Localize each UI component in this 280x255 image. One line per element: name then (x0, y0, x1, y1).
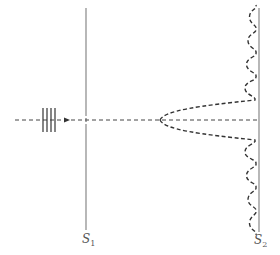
diffraction-pattern-upper (160, 5, 256, 120)
arrow-head-icon (64, 118, 70, 123)
screen-s1-label: S1 (82, 232, 95, 248)
diffraction-pattern-lower (160, 120, 256, 235)
diffraction-diagram: S1 S2 (0, 0, 280, 255)
screen-s2-label: S2 (254, 233, 267, 249)
